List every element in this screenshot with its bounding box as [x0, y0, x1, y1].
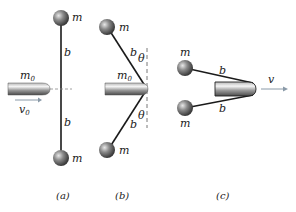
- bullet: [8, 83, 50, 95]
- rod-label-bottom: b: [219, 102, 226, 115]
- angle-label-top: θ: [138, 52, 145, 65]
- bullet: [105, 83, 148, 95]
- mass-ball-top: [177, 60, 193, 76]
- bullet-mass-label: m0: [20, 69, 35, 83]
- arrow-head-icon: [283, 87, 288, 92]
- mass-label-bottom: m: [119, 144, 129, 157]
- rod-label-top: b: [64, 46, 71, 59]
- rod-label-top: b: [219, 64, 226, 77]
- arrow-head-icon: [38, 98, 42, 103]
- velocity-label: v: [268, 73, 275, 86]
- caption-c: (c): [216, 190, 230, 201]
- mass-label-top: m: [119, 21, 129, 34]
- velocity-label: v0: [19, 103, 30, 117]
- mass-label-bottom: m: [180, 117, 190, 130]
- panel-a: m m b b m0 v0 (a): [8, 10, 82, 201]
- mass-label-top: m: [180, 46, 190, 59]
- caption-a: (a): [56, 190, 70, 201]
- caption-b: (b): [115, 190, 129, 201]
- mass-ball-bottom: [99, 142, 115, 158]
- rod-label-top: b: [130, 46, 137, 59]
- angle-label-bottom: θ: [138, 109, 145, 122]
- mass-ball-top: [53, 10, 69, 26]
- mass-ball-bottom: [177, 100, 193, 116]
- collision-diagram: m m b b m0 v0 (a) m m b b θ θ m0 (b) m m: [0, 0, 296, 212]
- mass-ball-bottom: [53, 150, 69, 166]
- rod-label-bottom: b: [130, 118, 137, 131]
- panel-b: m m b b θ θ m0 (b): [99, 19, 148, 201]
- panel-c: m m b b v (c): [177, 46, 288, 201]
- mass-label-bottom: m: [72, 152, 82, 165]
- bullet-mass-label: m0: [117, 69, 132, 83]
- rod-label-bottom: b: [64, 116, 71, 129]
- bullet: [215, 82, 256, 96]
- mass-label-top: m: [72, 11, 82, 24]
- mass-ball-top: [99, 19, 115, 35]
